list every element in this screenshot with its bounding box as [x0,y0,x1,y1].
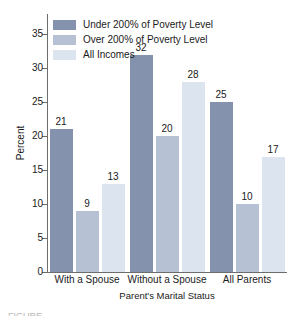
bar-value-label: 13 [107,172,118,182]
x-category-label: With a Spouse [47,274,127,285]
bar-fill [76,211,99,272]
legend-item[interactable]: Under 200% of Poverty Level [53,17,213,32]
bar[interactable]: 9 [76,211,99,272]
y-axis-label: Percent [15,126,26,160]
bar-fill [210,102,233,272]
legend-label: Under 200% of Poverty Level [83,20,213,30]
legend-swatch [53,50,76,60]
bar-fill [182,82,205,272]
bar[interactable]: 20 [156,136,179,272]
y-tick-label: 5 [37,233,43,243]
bar-value-label: 9 [84,199,90,209]
bar-chart-figure: Percent 05101520253035 21913322028251017… [0,0,301,316]
y-tick-label: 35 [32,29,43,39]
bar-value-label: 17 [267,145,278,155]
legend-item[interactable]: All Incomes [53,47,213,62]
x-axis-label: Parent's Marital Status [47,290,287,301]
x-category-label: Without a Spouse [127,274,207,285]
bar-fill [236,204,259,272]
chart-legend: Under 200% of Poverty LevelOver 200% of … [53,17,213,62]
bar-fill [50,129,73,272]
x-axis-category-labels: With a SpouseWithout a SpouseAll Parents [47,274,287,285]
bar-value-label: 10 [241,192,252,202]
bar[interactable]: 17 [262,157,285,272]
legend-label: All Incomes [83,50,135,60]
y-axis-label-holder: Percent [14,14,15,272]
figure-caption: FIGURE [8,311,158,316]
bar-fill [102,184,125,272]
bar[interactable]: 32 [130,55,153,272]
y-tick-label: 25 [32,97,43,107]
legend-item[interactable]: Over 200% of Poverty Level [53,32,213,47]
bar-fill [262,157,285,272]
bar[interactable]: 13 [102,184,125,272]
x-category-label: All Parents [207,274,287,285]
bar-fill [130,55,153,272]
y-tick-label: 30 [32,63,43,73]
y-tick-label: 20 [32,131,43,141]
bar[interactable]: 25 [210,102,233,272]
bar-fill [156,136,179,272]
bar-value-label: 25 [215,90,226,100]
bar-value-label: 28 [187,70,198,80]
bar[interactable]: 21 [50,129,73,272]
legend-swatch [53,20,76,30]
bar[interactable]: 10 [236,204,259,272]
bar-value-label: 20 [161,124,172,134]
bar-value-label: 21 [55,117,66,127]
bar[interactable]: 28 [182,82,205,272]
y-tick-label: 10 [32,199,43,209]
legend-swatch [53,35,76,45]
y-tick-label: 0 [37,267,43,277]
bar-group: 251017 [207,14,287,272]
y-tick-label: 15 [32,165,43,175]
legend-label: Over 200% of Poverty Level [83,35,208,45]
x-axis-spine [47,272,287,273]
